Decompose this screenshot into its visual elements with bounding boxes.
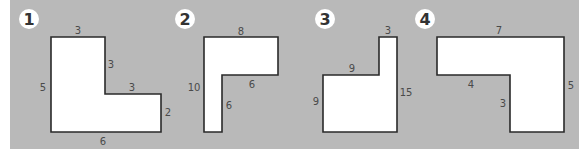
shape-1-label-right: 2: [165, 107, 171, 118]
shape-1-label-inner-vertical: 3: [108, 59, 114, 70]
shape-1-label-top: 3: [75, 25, 81, 36]
shape-2-label-top: 8: [238, 26, 244, 37]
badge-4-label: 4: [419, 10, 430, 29]
shape-4: [437, 37, 564, 132]
shape-3-label-left: 9: [313, 96, 319, 107]
badge-1-label: 1: [23, 10, 34, 29]
shape-4-label-top: 7: [496, 25, 502, 36]
shape-4-label-inner-vertical: 3: [500, 98, 506, 109]
shape-3: [323, 37, 397, 132]
shape-4-label-right: 5: [568, 80, 574, 91]
shape-3-label-top: 3: [385, 25, 391, 36]
shape-1: [51, 37, 161, 132]
shape-3-label-inner-horizontal: 9: [349, 63, 355, 74]
figure-2: 2 8 6 6 10: [175, 9, 278, 132]
shape-1-label-inner-horizontal: 3: [129, 82, 135, 93]
figure-4: 4 7 4 3 5: [415, 9, 574, 132]
shape-1-label-bottom: 6: [100, 136, 106, 147]
figure-1: 1 3 3 3 2 6 5: [19, 9, 171, 147]
shape-3-label-right: 15: [400, 87, 413, 98]
shape-2-label-inner-horizontal: 6: [249, 79, 255, 90]
shape-1-label-left: 5: [40, 82, 46, 93]
shapes-diagram: 1 3 3 3 2 6 5 2 8 6 6 10 3 3 9 9 15 4 7 …: [0, 0, 579, 149]
badge-2-label: 2: [179, 10, 190, 29]
shape-2: [204, 37, 278, 132]
badge-3-label: 3: [319, 10, 330, 29]
shape-2-label-inner-vertical: 6: [226, 100, 232, 111]
shape-2-label-left: 10: [188, 82, 201, 93]
shape-4-label-inner-horizontal: 4: [468, 79, 474, 90]
figure-3: 3 3 9 9 15: [313, 9, 413, 132]
